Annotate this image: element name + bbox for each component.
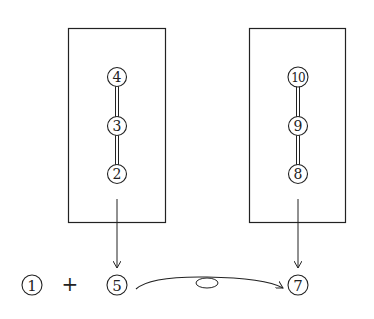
node-8: 8: [289, 165, 308, 184]
node-2: 2: [108, 165, 127, 184]
diagram-canvas: 4 3 2 10 9 8: [0, 0, 374, 319]
plus-sign: +: [62, 272, 79, 296]
node-4-label: 4: [113, 69, 122, 85]
right-double-bond-10-9: [297, 86, 300, 117]
node-2-label: 2: [113, 166, 122, 182]
node-10: 10: [288, 67, 308, 87]
left-box: 4 3 2: [69, 29, 166, 223]
right-double-bond-9-8: [297, 135, 300, 165]
node-7-label: 7: [293, 277, 303, 295]
left-double-bond-3-2: [116, 135, 119, 165]
left-double-bond-4-3: [116, 86, 119, 117]
node-3: 3: [108, 117, 127, 136]
node-3-label: 3: [113, 118, 122, 134]
node-1-label: 1: [27, 277, 37, 295]
node-1: 1: [22, 275, 42, 295]
node-5-label: 5: [112, 277, 122, 295]
node-9-label: 9: [294, 118, 303, 134]
node-8-label: 8: [294, 166, 303, 182]
reaction-ellipse: [196, 278, 218, 288]
right-box: 10 9 8: [250, 29, 346, 223]
node-7: 7: [288, 275, 308, 295]
node-10-label: 10: [291, 71, 305, 85]
node-4: 4: [108, 68, 127, 87]
node-9: 9: [289, 117, 308, 136]
node-5: 5: [107, 275, 127, 295]
